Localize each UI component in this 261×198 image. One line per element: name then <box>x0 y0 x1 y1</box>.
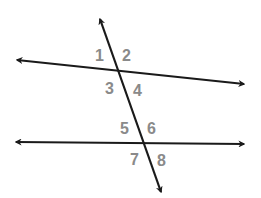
angle-label-3: 3 <box>105 80 114 97</box>
angle-label-6: 6 <box>147 120 156 137</box>
angle-label-8: 8 <box>157 152 166 169</box>
angle-label-1: 1 <box>95 47 104 64</box>
angle-label-7: 7 <box>130 151 139 168</box>
bottom-line <box>16 142 244 144</box>
angles-diagram: 1 2 3 4 5 6 7 8 <box>0 0 261 198</box>
angle-label-2: 2 <box>122 47 131 64</box>
angle-label-4: 4 <box>133 82 142 99</box>
angle-label-5: 5 <box>120 120 129 137</box>
